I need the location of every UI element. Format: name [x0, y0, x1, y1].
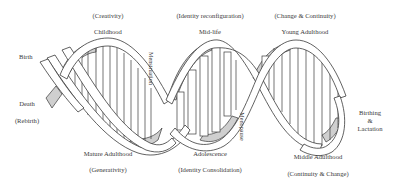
label-mature-adulthood: Mature Adulthood [84, 151, 133, 158]
label-middle-adulthood: Middle Adulthood [294, 154, 343, 161]
label-adolescence: Adolescence [193, 151, 227, 158]
lactation-line: Lactation [358, 125, 383, 133]
label-death: Death [19, 101, 35, 108]
label-adolescence-quality: (Identity Consolidation) [178, 167, 242, 174]
label-menstruation: Menstruation [148, 52, 155, 85]
label-midlife: Mid-life [199, 29, 221, 36]
label-menopause: Menopause [239, 112, 246, 141]
label-young-adulthood: Young Adulthood [282, 29, 329, 36]
label-rebirth: (Rebirth) [15, 118, 39, 125]
helix-strands [47, 38, 346, 156]
label-childhood-quality: (Creativity) [93, 13, 124, 20]
label-midlife-quality: (Identity reconfiguration) [176, 13, 243, 20]
ampersand-line: & [358, 117, 383, 125]
label-mature-adulthood-quality: (Generativity) [89, 167, 126, 174]
label-young-adulthood-quality: (Change & Continuity) [274, 13, 335, 20]
birthing-line: Birthing [358, 109, 383, 117]
label-middle-adulthood-quality: (Continuity & Change) [287, 171, 348, 178]
label-childhood: Childhood [94, 29, 122, 36]
label-birthing-lactation: Birthing & Lactation [358, 109, 383, 133]
label-birth: Birth [19, 54, 33, 61]
